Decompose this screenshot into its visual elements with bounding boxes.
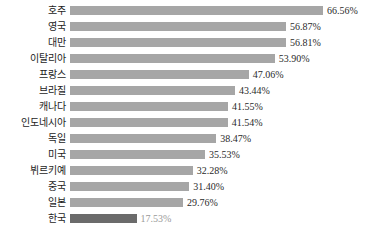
- value-label: 56.81%: [290, 35, 321, 51]
- value-label: 43.44%: [239, 83, 270, 99]
- chart-row: 한국17.53%: [0, 211, 371, 227]
- category-label: 한국: [0, 211, 66, 227]
- horizontal-bar-chart: 호주66.56%영국56.87%대만56.81%이탈리아53.90%프랑스47.…: [0, 0, 371, 231]
- value-label: 47.06%: [253, 67, 284, 83]
- bar: [70, 22, 286, 31]
- value-label: 38.47%: [220, 131, 251, 147]
- bar-track: 56.87%: [70, 19, 371, 35]
- bar-track: 66.56%: [70, 3, 371, 19]
- bar: [70, 70, 249, 79]
- bar: [70, 86, 235, 95]
- category-label: 브라질: [0, 83, 66, 99]
- value-label: 41.55%: [232, 99, 263, 115]
- bar: [70, 118, 228, 127]
- bar-track: 17.53%: [70, 211, 371, 227]
- bar: [70, 150, 205, 159]
- category-label: 캐나다: [0, 99, 66, 115]
- value-label: 29.76%: [187, 195, 218, 211]
- category-label: 인도네시아: [0, 115, 66, 131]
- bar-track: 35.53%: [70, 147, 371, 163]
- category-label: 미국: [0, 147, 66, 163]
- value-label: 56.87%: [290, 19, 321, 35]
- value-label: 53.90%: [279, 51, 310, 67]
- chart-row: 브라질43.44%: [0, 83, 371, 99]
- category-label: 중국: [0, 179, 66, 195]
- category-label: 이탈리아: [0, 51, 66, 67]
- bar: [70, 198, 183, 207]
- bar-track: 43.44%: [70, 83, 371, 99]
- value-label: 41.54%: [232, 115, 263, 131]
- value-label: 31.40%: [193, 179, 224, 195]
- category-label: 호주: [0, 3, 66, 19]
- chart-row: 이탈리아53.90%: [0, 51, 371, 67]
- value-label: 32.28%: [197, 163, 228, 179]
- category-label: 뷔르키예: [0, 163, 66, 179]
- chart-row: 호주66.56%: [0, 3, 371, 19]
- value-label: 35.53%: [209, 147, 240, 163]
- bar-track: 38.47%: [70, 131, 371, 147]
- chart-row: 독일38.47%: [0, 131, 371, 147]
- chart-row: 캐나다41.55%: [0, 99, 371, 115]
- bar-track: 56.81%: [70, 35, 371, 51]
- bar: [70, 166, 193, 175]
- bar: [70, 54, 275, 63]
- bar-track: 53.90%: [70, 51, 371, 67]
- chart-row: 뷔르키예32.28%: [0, 163, 371, 179]
- chart-row: 프랑스47.06%: [0, 67, 371, 83]
- value-label: 17.53%: [141, 211, 172, 227]
- bar-track: 41.55%: [70, 99, 371, 115]
- category-label: 영국: [0, 19, 66, 35]
- category-label: 대만: [0, 35, 66, 51]
- bar-track: 32.28%: [70, 163, 371, 179]
- bar: [70, 6, 323, 15]
- category-label: 일본: [0, 195, 66, 211]
- bar-track: 47.06%: [70, 67, 371, 83]
- chart-row: 중국31.40%: [0, 179, 371, 195]
- chart-row: 미국35.53%: [0, 147, 371, 163]
- chart-row: 대만56.81%: [0, 35, 371, 51]
- chart-row: 일본29.76%: [0, 195, 371, 211]
- bar-track: 41.54%: [70, 115, 371, 131]
- value-label: 66.56%: [327, 3, 358, 19]
- category-label: 독일: [0, 131, 66, 147]
- bar-track: 29.76%: [70, 195, 371, 211]
- category-label: 프랑스: [0, 67, 66, 83]
- bar: [70, 38, 286, 47]
- chart-row: 영국56.87%: [0, 19, 371, 35]
- chart-row: 인도네시아41.54%: [0, 115, 371, 131]
- bar-track: 31.40%: [70, 179, 371, 195]
- bar: [70, 102, 228, 111]
- bar: [70, 182, 189, 191]
- bar: [70, 134, 216, 143]
- bar-highlighted: [70, 214, 137, 223]
